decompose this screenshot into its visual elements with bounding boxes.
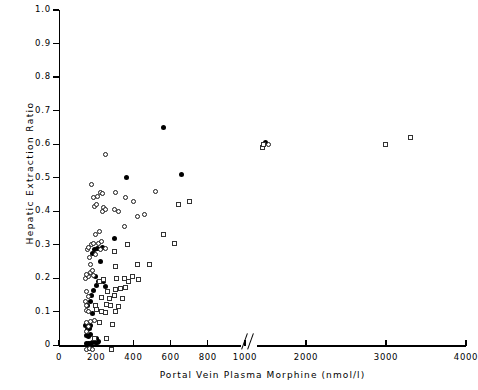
y-axis-title: Hepatic Extraction Ratio (25, 83, 35, 263)
data-point-filled-circle (91, 288, 96, 293)
data-point-open-square (123, 285, 128, 290)
data-point-open-circle (97, 229, 102, 234)
data-point-filled-circle (161, 125, 166, 130)
data-point-open-circle (113, 190, 118, 195)
data-point-open-circle (116, 209, 121, 214)
data-point-open-circle (123, 195, 128, 200)
data-point-filled-circle (124, 175, 129, 180)
data-point-open-square (99, 295, 104, 300)
data-point-open-square (125, 242, 130, 247)
data-point-open-square (92, 336, 97, 341)
x-axis-title: Portal Vein Plasma Morphine (nmol/l) (59, 370, 466, 380)
data-point-open-square (136, 277, 141, 282)
data-point-open-circle (100, 191, 105, 196)
data-point-open-circle (122, 224, 127, 229)
data-point-open-square (122, 276, 127, 281)
data-point-open-circle (89, 182, 94, 187)
data-point-open-square (408, 135, 413, 140)
data-point-open-square (101, 277, 106, 282)
data-point-open-circle (93, 252, 98, 257)
data-point-open-square (161, 232, 166, 237)
data-point-open-square (113, 264, 118, 269)
data-point-open-square (114, 276, 119, 281)
data-point-open-circle (103, 207, 108, 212)
data-point-open-square (112, 249, 117, 254)
data-point-open-square (107, 296, 112, 301)
data-point-open-circle (90, 347, 95, 352)
data-point-open-square (112, 293, 117, 298)
data-point-open-square (113, 309, 118, 314)
data-point-open-square (103, 310, 108, 315)
data-point-open-square (110, 322, 115, 327)
data-point-filled-circle (98, 259, 103, 264)
data-point-open-square (147, 262, 152, 267)
data-point-open-square (120, 296, 125, 301)
data-point-open-square (261, 142, 266, 147)
data-point-open-circle (88, 262, 93, 267)
data-point-open-circle (135, 214, 140, 219)
data-point-open-square (383, 142, 388, 147)
data-point-open-square (172, 241, 177, 246)
data-point-open-square (109, 347, 114, 352)
data-point-open-square (97, 320, 102, 325)
data-point-open-square (135, 262, 140, 267)
data-point-filled-circle (112, 236, 117, 241)
data-point-open-square (108, 303, 113, 308)
data-point-open-circle (103, 152, 108, 157)
data-point-open-square (104, 336, 109, 341)
data-point-open-circle (153, 189, 158, 194)
data-point-open-square (187, 199, 192, 204)
data-point-open-square (105, 289, 110, 294)
data-point-filled-circle (179, 172, 184, 177)
data-point-open-square (176, 202, 181, 207)
data-point-open-square (116, 304, 121, 309)
data-point-open-circle (142, 212, 147, 217)
data-point-open-square (93, 303, 98, 308)
data-point-open-circle (266, 142, 271, 147)
data-point-open-square (130, 274, 135, 279)
data-point-open-circle (131, 199, 136, 204)
data-point-open-circle (99, 239, 104, 244)
data-point-open-circle (94, 202, 99, 207)
data-point-open-circle (103, 246, 108, 251)
data-point-open-circle (87, 255, 92, 260)
